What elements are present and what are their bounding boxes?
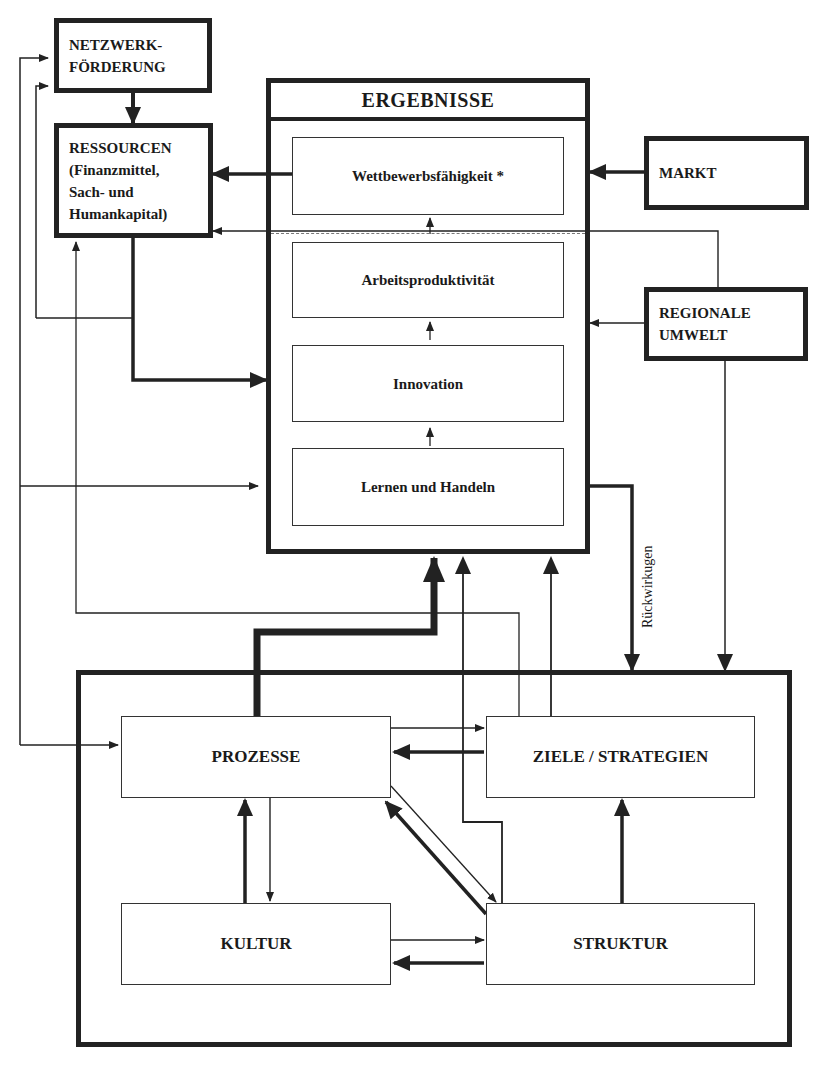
arrow-rail1-netzwerk xyxy=(20,58,48,745)
ressourcen-box: RESSOURCEN (Finanzmittel, Sach- und Huma… xyxy=(54,123,213,238)
markt-label: MARKT xyxy=(659,162,717,184)
arbeitsproduktivitaet-label: Arbeitsproduktivität xyxy=(361,269,494,291)
regionale-line-2: UMWELT xyxy=(659,324,751,346)
kultur-label: KULTUR xyxy=(220,933,291,955)
struktur-box: STRUKTUR xyxy=(486,903,755,985)
lernen-label: Lernen und Handeln xyxy=(361,476,495,498)
kultur-box: KULTUR xyxy=(121,903,391,985)
wettbewerb-label: Wettbewerbsfähigkeit * xyxy=(352,165,504,187)
netzwerk-foerderung-box: NETZWERK- FÖRDERUNG xyxy=(54,18,212,93)
netzwerk-line-1: NETZWERK- xyxy=(69,34,166,56)
ressourcen-line-1: RESSOURCEN xyxy=(69,137,172,159)
markt-box: MARKT xyxy=(644,136,809,210)
ziele-strategien-box: ZIELE / STRATEGIEN xyxy=(486,716,755,798)
ergebnis-innovation: Innovation xyxy=(292,345,564,422)
innovation-label: Innovation xyxy=(393,373,463,395)
ressourcen-line-4: Humankapital) xyxy=(69,203,172,225)
rueckwirkungen-label: Rückwirkugen xyxy=(640,546,656,628)
netzwerk-line-2: FÖRDERUNG xyxy=(69,56,166,78)
prozesse-label: PROZESSE xyxy=(212,746,301,768)
arrow-rail2-netzwerk xyxy=(36,86,48,318)
ressourcen-line-3: Sach- und xyxy=(69,181,172,203)
ziele-label: ZIELE / STRATEGIEN xyxy=(533,746,708,768)
struktur-label: STRUKTUR xyxy=(573,933,667,955)
ressourcen-line-2: (Finanzmittel, xyxy=(69,159,172,181)
prozesse-box: PROZESSE xyxy=(121,716,391,798)
ergebnis-wettbewerbsfaehigkeit: Wettbewerbsfähigkeit * xyxy=(292,137,564,215)
ergebnisse-title: ERGEBNISSE xyxy=(271,85,585,115)
ergebnis-arbeitsproduktivitaet: Arbeitsproduktivität xyxy=(292,242,564,318)
ergebnisse-title-divider xyxy=(271,117,585,121)
regionale-umwelt-box: REGIONALE UMWELT xyxy=(644,287,808,361)
ergebnis-lernen-handeln: Lernen und Handeln xyxy=(292,448,564,526)
ergebnisse-dotted-divider xyxy=(271,233,585,234)
regionale-line-1: REGIONALE xyxy=(659,302,751,324)
